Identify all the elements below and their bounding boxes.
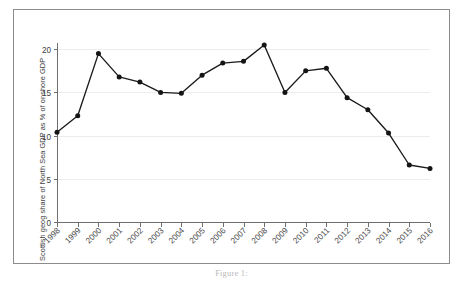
data-point xyxy=(158,90,163,95)
data-point xyxy=(241,59,246,64)
x-tick-label: 2005 xyxy=(188,226,208,246)
data-point xyxy=(428,166,433,171)
x-tick-label: 2012 xyxy=(333,226,353,246)
data-point-markers xyxy=(55,42,433,171)
y-axis-title: Scottish geog share of North Sea GDP as … xyxy=(36,14,50,261)
x-axis-tick-labels: 1998199920002001200220032004200520062007… xyxy=(43,226,436,246)
data-point xyxy=(55,130,60,135)
data-point xyxy=(303,68,308,73)
plot-area: 05101520 1998199920002001200220032004200… xyxy=(14,10,449,263)
data-point xyxy=(262,42,267,47)
data-point xyxy=(386,131,391,136)
x-tick-label: 2014 xyxy=(374,226,394,246)
data-point xyxy=(117,74,122,79)
x-tick-label: 2015 xyxy=(395,226,415,246)
data-point xyxy=(137,80,142,85)
data-point xyxy=(75,113,80,118)
x-tick-label: 2002 xyxy=(126,226,146,246)
x-tick-label: 2003 xyxy=(146,226,166,246)
data-point xyxy=(365,107,370,112)
data-point xyxy=(345,95,350,100)
x-tick-label: 2016 xyxy=(416,226,436,246)
data-point xyxy=(324,66,329,71)
x-tick-label: 2010 xyxy=(291,226,311,246)
data-point xyxy=(282,90,287,95)
x-tick-label: 2000 xyxy=(84,226,104,246)
chart-frame: 05101520 1998199920002001200220032004200… xyxy=(13,9,450,264)
data-point xyxy=(407,163,412,168)
x-tick-label: 2009 xyxy=(271,226,291,246)
x-tick-label: 2001 xyxy=(105,226,125,246)
x-tick-label: 2008 xyxy=(250,226,270,246)
figure-caption: Figure 1: xyxy=(13,268,450,278)
data-point xyxy=(96,51,101,56)
x-tick-label: 2007 xyxy=(229,226,249,246)
x-tick-label: 2004 xyxy=(167,226,187,246)
data-point xyxy=(200,73,205,78)
data-point xyxy=(179,91,184,96)
x-tick-label: 2011 xyxy=(312,226,331,245)
x-tick-label: 2013 xyxy=(353,226,373,246)
x-tick-label: 2006 xyxy=(208,226,228,246)
x-tick-label: 1999 xyxy=(63,226,83,246)
line-chart: 05101520 1998199920002001200220032004200… xyxy=(14,10,451,265)
figure-root: 05101520 1998199920002001200220032004200… xyxy=(0,0,462,287)
data-point xyxy=(220,61,225,66)
x-axis-ticks xyxy=(58,223,431,227)
